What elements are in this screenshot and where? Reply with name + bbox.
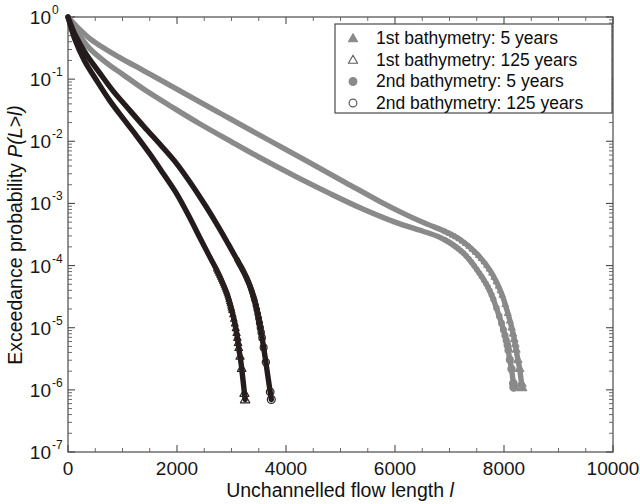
svg-text:-4: -4	[52, 252, 63, 266]
y-axis-title: Exceedance probability P(L>l)	[4, 105, 26, 365]
data-point-marker	[499, 320, 505, 326]
y-tick-label: 10-5	[30, 314, 63, 339]
svg-text:10: 10	[30, 318, 51, 339]
data-point-marker	[496, 313, 501, 318]
series-line	[68, 17, 271, 399]
legend-label: 2nd bathymetry: 5 years	[376, 71, 564, 91]
svg-text:-1: -1	[52, 65, 63, 79]
data-point-marker	[491, 297, 496, 302]
legend-item: 2nd bathymetry: 5 years	[349, 71, 564, 91]
data-markers	[214, 229, 527, 403]
y-tick-label: 10-7	[30, 438, 63, 463]
data-point-marker	[494, 305, 499, 310]
svg-text:-5: -5	[52, 314, 63, 328]
svg-text:10: 10	[30, 193, 51, 214]
legend-item: 2nd bathymetry: 125 years	[349, 93, 583, 113]
y-tick-label: 10-1	[30, 65, 63, 90]
y-axis-title-text: Exceedance probability	[4, 158, 26, 365]
y-axis-title-symbol: P(L>l)	[4, 105, 26, 158]
svg-text:10: 10	[30, 256, 51, 277]
y-tick-label: 10-2	[30, 127, 63, 152]
legend-item: 1st bathymetry: 125 years	[348, 50, 577, 70]
data-point-marker	[505, 347, 512, 354]
x-tick-label: 6000	[374, 458, 416, 479]
svg-text:10: 10	[30, 380, 51, 401]
svg-text:-3: -3	[52, 189, 63, 203]
svg-text:10: 10	[30, 442, 51, 463]
svg-text:-7: -7	[52, 438, 63, 452]
y-tick-label: 10-3	[30, 189, 63, 214]
svg-text:-6: -6	[52, 376, 63, 390]
svg-text:-2: -2	[52, 127, 63, 141]
svg-text:Unchannelled flow length l: Unchannelled flow length l	[226, 479, 454, 501]
y-tick-labels: 10010-110-210-310-410-510-610-7	[30, 3, 63, 463]
x-axis-title: Unchannelled flow length l	[226, 479, 454, 501]
data-point-marker	[510, 383, 518, 391]
data-point-marker	[506, 356, 513, 363]
y-tick-label: 10-6	[30, 376, 63, 401]
svg-text:10: 10	[30, 131, 51, 152]
data-point-marker	[508, 365, 515, 372]
x-axis-title-symbol: l	[449, 479, 454, 501]
x-tick-label: 2000	[156, 458, 198, 479]
svg-text:10: 10	[30, 69, 51, 90]
svg-text:Exceedance probability P(L>l): Exceedance probability P(L>l)	[4, 105, 26, 365]
legend-label: 1st bathymetry: 5 years	[376, 28, 558, 48]
y-tick-label: 100	[30, 3, 59, 28]
series-line	[68, 17, 245, 399]
svg-text:10: 10	[30, 7, 51, 28]
chart-svg: 0200040006000800010000 10010-110-210-310…	[0, 0, 640, 504]
filled-circle-icon	[349, 78, 357, 86]
legend-label: 2nd bathymetry: 125 years	[376, 93, 583, 113]
exceedance-probability-chart: 0200040006000800010000 10010-110-210-310…	[0, 0, 640, 504]
x-tick-label: 0	[63, 458, 74, 479]
legend-item: 1st bathymetry: 5 years	[348, 28, 558, 48]
x-tick-label: 10000	[587, 458, 640, 479]
data-point-marker	[501, 327, 507, 333]
x-tick-label: 8000	[483, 458, 525, 479]
x-tick-label: 4000	[265, 458, 307, 479]
svg-text:0: 0	[52, 3, 59, 17]
legend-label: 1st bathymetry: 125 years	[376, 50, 578, 70]
x-axis-title-text: Unchannelled flow length	[226, 479, 449, 501]
chart-legend: 1st bathymetry: 5 years1st bathymetry: 1…	[335, 24, 612, 113]
y-tick-label: 10-4	[30, 252, 63, 277]
x-tick-labels: 0200040006000800010000	[63, 458, 640, 479]
